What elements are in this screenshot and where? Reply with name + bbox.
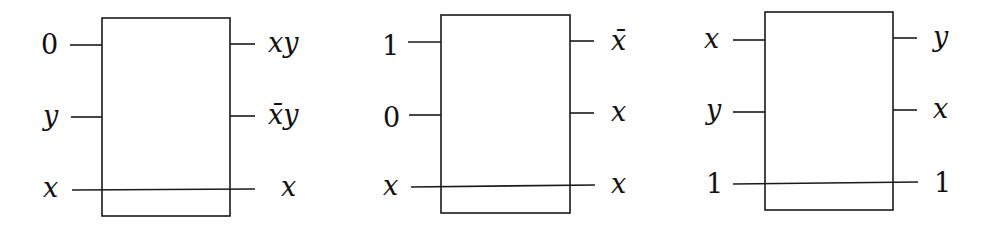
gate-3-output-label-2: x — [933, 93, 948, 124]
gate-1-box — [102, 18, 230, 216]
gate-2-output-label-1: x̄ — [611, 25, 626, 56]
gate-2-output-label-3: x — [611, 168, 626, 199]
gate-1-output-label-2: x̄y — [268, 99, 299, 130]
gate-2-box — [441, 15, 570, 213]
gate-1-input-label-1: 0 — [41, 29, 58, 60]
gate-diagrams: 0 y x xy x̄y x 1 0 x x̄ x x x y 1 y x 1 — [0, 0, 993, 226]
gate-1-output-label-3: x — [281, 171, 296, 202]
gate-3-input-label-1: x — [704, 23, 719, 54]
gate-3-output-label-1: y — [932, 21, 949, 52]
gate-3-box — [765, 12, 893, 210]
gate-2-input-label-1: 1 — [382, 30, 399, 61]
gate-2-output-label-2: x — [611, 96, 626, 127]
gate-1-output-label-1: xy — [268, 27, 299, 58]
gate-1: 0 y x xy x̄y x — [41, 18, 299, 216]
gate-3-output-label-3: 1 — [934, 167, 951, 198]
gate-2: 1 0 x x̄ x x — [382, 15, 626, 213]
gate-2-input-label-2: 0 — [383, 102, 400, 133]
gate-3-input-label-2: y — [705, 94, 722, 125]
gate-1-passthrough-wire — [72, 189, 255, 190]
gate-3-input-label-3: 1 — [706, 168, 723, 199]
gate-2-input-label-3: x — [383, 170, 398, 201]
gate-1-input-label-2: y — [42, 100, 59, 131]
gate-1-input-label-3: x — [43, 172, 58, 203]
gate-3: x y 1 y x 1 — [704, 12, 951, 210]
